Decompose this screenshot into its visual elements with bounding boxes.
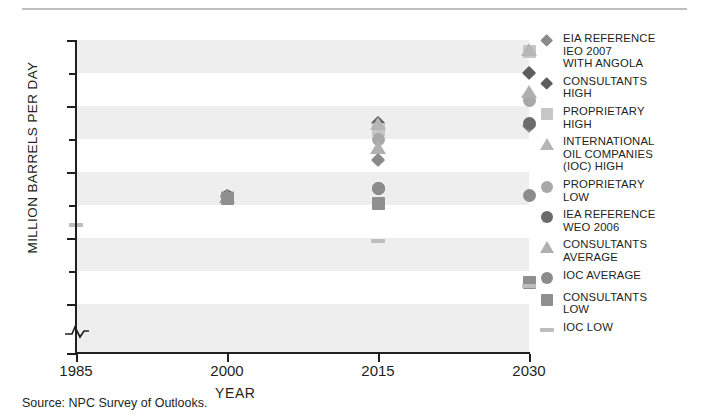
- data-marker-square-icon: [541, 108, 553, 120]
- legend-item-consultants-high[interactable]: CONSULTANTS HIGH: [536, 75, 704, 100]
- legend-swatch: [536, 76, 558, 92]
- legend-swatch: [536, 270, 558, 286]
- plot-area: [76, 40, 529, 353]
- x-axis-title: YEAR: [215, 385, 256, 401]
- x-axis-tick-label: 2000: [187, 362, 267, 379]
- data-point-dash: [371, 239, 386, 243]
- y-axis-tick: [67, 353, 76, 355]
- data-marker-dash-icon: [540, 328, 554, 332]
- scatter-chart-figure: 70605040300 1985200020152030 MILLION BAR…: [0, 0, 705, 420]
- data-point-diamond: [522, 66, 536, 80]
- legend-label: CONSULTANTS AVERAGE: [563, 238, 647, 263]
- chart-legend: EIA REFERENCE IEO 2007 WITH ANGOLACONSUL…: [536, 32, 704, 343]
- legend-label: EIA REFERENCE IEO 2007 WITH ANGOLA: [563, 32, 655, 70]
- legend-item-ioc-high[interactable]: INTERNATIONAL OIL COMPANIES (IOC) HIGH: [536, 135, 704, 173]
- legend-swatch: [536, 179, 558, 195]
- top-divider-rule: [22, 8, 687, 10]
- legend-item-eia-reference-ieo-2007[interactable]: EIA REFERENCE IEO 2007 WITH ANGOLA: [536, 32, 704, 70]
- legend-swatch: [536, 33, 558, 49]
- legend-swatch: [536, 136, 558, 152]
- x-axis-line: [75, 352, 530, 354]
- x-axis-tick: [76, 354, 78, 362]
- data-point-square: [221, 192, 234, 205]
- legend-label: INTERNATIONAL OIL COMPANIES (IOC) HIGH: [563, 135, 655, 173]
- data-marker-diamond-icon: [540, 77, 553, 90]
- legend-swatch: [536, 239, 558, 255]
- y-axis-minor-tick: [69, 73, 76, 75]
- data-point-diamond: [371, 153, 385, 167]
- legend-label: IOC AVERAGE: [563, 269, 641, 282]
- y-axis-title: MILLION BARRELS PER DAY: [25, 8, 40, 308]
- data-point-triangle: [521, 85, 537, 98]
- legend-label: IEA REFERENCE WEO 2006: [563, 208, 655, 233]
- data-point-square: [372, 197, 385, 210]
- data-point-triangle: [521, 43, 537, 56]
- legend-item-proprietary-low[interactable]: PROPRIETARY LOW: [536, 178, 704, 203]
- y-axis-tick: [67, 106, 76, 108]
- data-point-triangle: [370, 141, 386, 154]
- x-axis-tick: [227, 354, 229, 362]
- source-note: Source: NPC Survey of Outlooks.: [22, 396, 208, 410]
- data-marker-triangle-icon: [540, 241, 554, 253]
- y-axis-minor-tick: [69, 205, 76, 207]
- legend-label: PROPRIETARY LOW: [563, 178, 645, 203]
- y-axis-break-icon: [64, 320, 90, 340]
- data-point-dash: [522, 284, 537, 288]
- data-point-circle: [372, 182, 385, 195]
- data-marker-diamond-icon: [540, 34, 553, 47]
- legend-item-ioc-average[interactable]: IOC AVERAGE: [536, 269, 704, 286]
- x-axis-tick-label: 1985: [36, 362, 116, 379]
- y-axis-minor-tick: [69, 271, 76, 273]
- data-marker-circle-icon: [541, 211, 553, 223]
- legend-label: CONSULTANTS LOW: [563, 291, 647, 316]
- legend-swatch: [536, 106, 558, 122]
- y-axis-tick: [67, 304, 76, 306]
- y-axis-minor-tick: [69, 139, 76, 141]
- x-axis-tick: [529, 354, 531, 362]
- legend-item-proprietary-high[interactable]: PROPRIETARY HIGH: [536, 105, 704, 130]
- legend-item-consultants-average[interactable]: CONSULTANTS AVERAGE: [536, 238, 704, 263]
- legend-swatch: [536, 322, 558, 338]
- x-axis-tick-label: 2015: [338, 362, 418, 379]
- legend-label: CONSULTANTS HIGH: [563, 75, 647, 100]
- y-axis-tick: [67, 172, 76, 174]
- legend-swatch: [536, 209, 558, 225]
- data-marker-circle-icon: [541, 272, 553, 284]
- legend-item-consultants-low[interactable]: CONSULTANTS LOW: [536, 291, 704, 316]
- legend-label: PROPRIETARY HIGH: [563, 105, 645, 130]
- data-point-circle: [523, 117, 536, 130]
- data-marker-circle-icon: [541, 181, 553, 193]
- x-axis-tick-label: 2030: [489, 362, 569, 379]
- legend-swatch: [536, 292, 558, 308]
- x-axis-tick: [378, 354, 380, 362]
- legend-item-ioc-low[interactable]: IOC LOW: [536, 321, 704, 338]
- legend-label: IOC LOW: [563, 321, 613, 334]
- y-axis-tick: [67, 238, 76, 240]
- y-axis-tick: [67, 40, 76, 42]
- data-point-triangle: [370, 117, 386, 130]
- data-point-circle: [523, 189, 536, 202]
- data-marker-triangle-icon: [540, 138, 554, 150]
- legend-item-iea-reference-weo-2006[interactable]: IEA REFERENCE WEO 2006: [536, 208, 704, 233]
- data-marker-square-icon: [541, 294, 553, 306]
